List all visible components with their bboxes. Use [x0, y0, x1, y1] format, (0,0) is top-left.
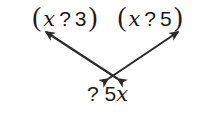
operator-placeholder-right: ?	[144, 8, 156, 29]
open-paren-left: (	[32, 3, 41, 31]
operator-placeholder-left: ?	[59, 8, 71, 29]
middle-term: ? 5 x	[87, 83, 128, 105]
variable-x-term: x	[116, 84, 128, 105]
operator-placeholder-term: ?	[87, 83, 99, 104]
arrow-right	[108, 32, 178, 79]
close-paren-left: )	[89, 3, 98, 31]
factor-left: ( x ? 3 )	[32, 4, 97, 31]
middle-term-row: ? 5 x	[0, 83, 215, 105]
variable-x-left: x	[43, 9, 55, 30]
arrow-left	[46, 32, 118, 79]
open-paren-right: (	[118, 3, 127, 31]
close-paren-right: )	[174, 3, 183, 31]
factors-row: ( x ? 3 ) ( x ? 5 )	[0, 4, 215, 31]
constant-five: 5	[160, 8, 172, 29]
constant-three: 3	[75, 8, 87, 29]
factor-diagram: ( x ? 3 ) ( x ? 5 ) ? 5 x	[0, 0, 215, 116]
variable-x-right: x	[129, 9, 141, 30]
coefficient-five: 5	[105, 83, 117, 104]
factor-right: ( x ? 5 )	[118, 4, 183, 31]
